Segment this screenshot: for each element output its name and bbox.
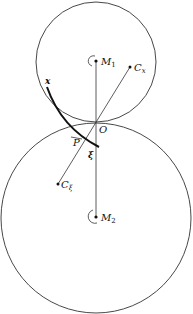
label-cx: Cx bbox=[134, 62, 146, 75]
label-cxi: Cξ bbox=[61, 179, 74, 192]
label-m2: M2 bbox=[100, 212, 116, 225]
m1-dot bbox=[94, 59, 97, 62]
rotation-arrow-m1-icon bbox=[88, 56, 95, 66]
cxi-dot bbox=[57, 183, 60, 186]
label-x: x bbox=[44, 76, 51, 86]
cx-dot bbox=[129, 66, 132, 69]
gear-contact-diagram: M1 M2 Cx Cξ O P x ξ bbox=[0, 0, 193, 314]
label-p: P bbox=[72, 137, 80, 148]
label-m1: M1 bbox=[100, 56, 116, 69]
diagram-canvas: M1 M2 Cx Cξ O P x ξ bbox=[0, 0, 193, 314]
label-xi: ξ bbox=[88, 150, 94, 160]
m2-dot bbox=[94, 215, 97, 218]
label-o: O bbox=[99, 124, 107, 135]
